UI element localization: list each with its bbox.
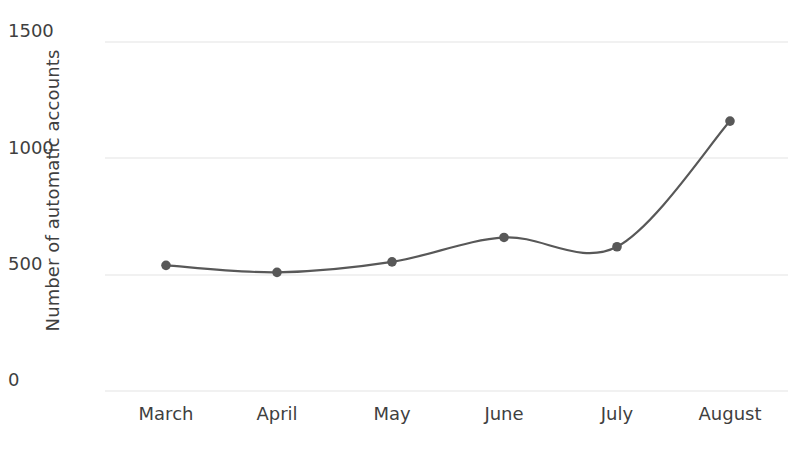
data-point-july <box>612 242 622 252</box>
series-line-automatic-accounts <box>166 121 730 272</box>
line-chart: Number of automatic accounts 1500 1000 5… <box>0 0 808 454</box>
data-point-june <box>499 233 509 243</box>
x-tick-label-june: June <box>484 403 523 424</box>
x-tick-label-march: March <box>139 403 194 424</box>
x-tick-label-april: April <box>256 403 297 424</box>
gridlines <box>105 42 788 391</box>
x-tick-label-may: May <box>373 403 410 424</box>
x-tick-label-august: August <box>699 403 762 424</box>
data-point-august <box>725 116 735 126</box>
data-point-april <box>272 268 282 278</box>
data-point-may <box>387 257 397 267</box>
data-point-march <box>161 261 171 271</box>
series-markers <box>161 116 735 277</box>
x-tick-label-july: July <box>601 403 633 424</box>
plot-area <box>0 0 808 454</box>
